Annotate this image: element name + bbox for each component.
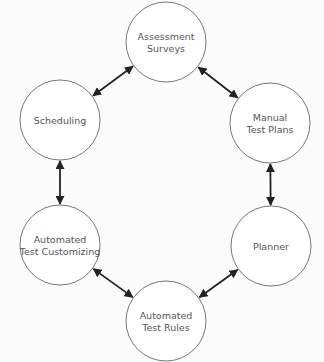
node-customizing: AutomatedTest Customizing (19, 205, 100, 285)
node-rules: AutomatedTest Rules (126, 281, 206, 361)
cycle-diagram: AssessmentSurveysManualTest PlansPlanner… (0, 0, 324, 362)
node-assessment: AssessmentSurveys (126, 2, 206, 82)
node-label: Automated (34, 234, 87, 245)
node-label: Automated (140, 310, 193, 321)
node-planner: Planner (231, 206, 311, 286)
node-label: Manual (253, 112, 288, 123)
node-label: Assessment (138, 31, 195, 42)
node-label: Test Rules (141, 322, 189, 333)
node-label: Surveys (147, 43, 185, 54)
arrow-scheduling-assessment (93, 66, 133, 95)
arrow-assessment-manual (198, 67, 237, 98)
arrow-planner-rules (199, 270, 237, 297)
node-label: Test Plans (246, 124, 294, 135)
node-label: Planner (253, 241, 289, 252)
node-label: Test Customizing (19, 246, 100, 257)
arrow-rules-customizing (93, 269, 132, 297)
node-manual: ManualTest Plans (230, 83, 310, 163)
node-scheduling: Scheduling (20, 80, 100, 160)
node-label: Scheduling (34, 115, 87, 126)
